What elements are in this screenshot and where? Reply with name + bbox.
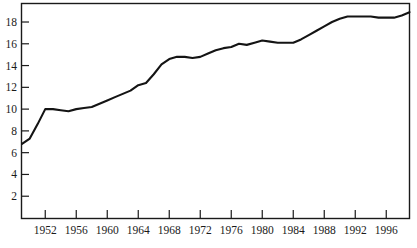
y-tick-label: 2 [11,190,17,202]
x-tick-label: 1984 [282,224,305,236]
x-tick-label: 1976 [220,224,243,236]
x-tick-label: 1952 [34,224,57,236]
chart-page: 24681012141618 1952195619601964196819721… [0,0,417,248]
x-tick-label: 1988 [313,224,336,236]
x-tick-label: 1992 [344,224,367,236]
x-tick-label: 1956 [65,224,88,236]
x-tick-label: 1968 [158,224,181,236]
x-axis-labels: 1952195619601964196819721976198019841988… [34,224,398,236]
x-tick-label: 1972 [189,224,212,236]
y-tick-label: 6 [11,147,17,159]
x-tick-label: 1980 [251,224,274,236]
y-axis-labels: 24681012141618 [6,16,18,202]
y-tick-label: 16 [6,38,18,50]
y-tick-label: 4 [11,168,17,180]
plot-frame [22,4,410,219]
x-axis-ticks [45,210,386,218]
x-tick-label: 1964 [127,224,150,236]
y-tick-label: 14 [6,60,18,72]
series-line-value [22,12,410,144]
y-axis-ticks [22,22,29,196]
y-tick-label: 8 [11,125,17,137]
x-tick-label: 1996 [375,224,398,236]
y-tick-label: 10 [6,103,18,115]
line-chart: 24681012141618 1952195619601964196819721… [0,0,417,248]
x-tick-label: 1960 [96,224,119,236]
y-tick-label: 18 [6,16,18,28]
data-series-group [22,12,410,144]
y-tick-label: 12 [6,81,18,93]
